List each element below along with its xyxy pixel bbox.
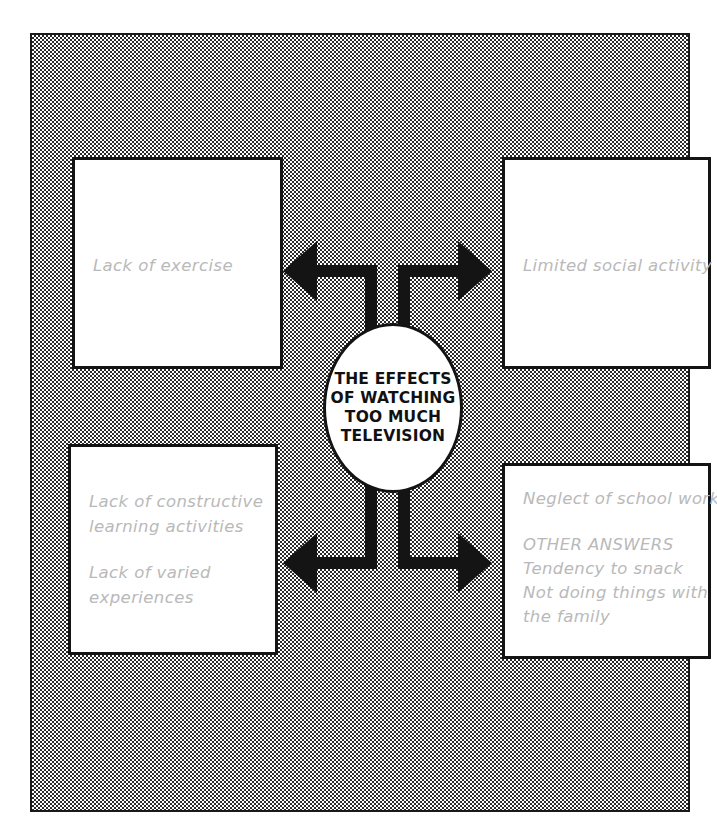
branch-box-bottom-left[interactable]: Lack of constructive learning activities… xyxy=(68,444,278,655)
branch-line: learning activities xyxy=(89,514,263,539)
branch-text-bottom-left: Lack of constructive learning activities… xyxy=(89,489,263,610)
center-topic-label: THE EFFECTS OF WATCHING TOO MUCH TELEVIS… xyxy=(331,370,456,446)
center-topic-circle[interactable]: THE EFFECTS OF WATCHING TOO MUCH TELEVIS… xyxy=(323,323,463,493)
arrow-bottom-left-icon xyxy=(281,478,386,603)
diagram-page: Lack of exercise Limited social activity… xyxy=(0,0,717,833)
branch-line-other-answers: OTHER ANSWERS xyxy=(523,532,696,557)
branch-box-top-right[interactable]: Limited social activity xyxy=(502,157,711,369)
branch-text-top-left: Lack of exercise xyxy=(93,253,268,278)
branch-box-bottom-right[interactable]: Neglect of school work OTHER ANSWERS Ten… xyxy=(502,463,711,659)
branch-line: Lack of exercise xyxy=(93,253,268,278)
branch-text-bottom-right: Neglect of school work OTHER ANSWERS Ten… xyxy=(523,486,696,629)
branch-line: Lack of constructive xyxy=(89,489,263,514)
branch-line: Limited social activity xyxy=(523,253,696,278)
branch-line: Neglect of school work xyxy=(523,486,696,511)
branch-line: experiences xyxy=(89,585,263,610)
branch-text-top-right: Limited social activity xyxy=(523,253,696,278)
branch-line: Tendency to snack xyxy=(523,557,696,581)
diagram-panel: Lack of exercise Limited social activity… xyxy=(30,33,690,812)
branch-box-top-left[interactable]: Lack of exercise xyxy=(72,157,283,369)
branch-line: the family xyxy=(523,605,696,629)
arrow-bottom-right-icon xyxy=(389,478,494,603)
branch-line: Not doing things with xyxy=(523,581,696,605)
branch-line: Lack of varied xyxy=(89,560,263,585)
